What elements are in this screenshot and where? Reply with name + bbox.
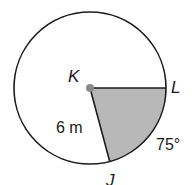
radius-label: 6 m	[56, 119, 83, 136]
label-l: L	[171, 78, 180, 97]
label-j: J	[105, 171, 115, 185]
circle-diagram: K L J 6 m 75°	[0, 0, 196, 185]
center-point	[86, 84, 94, 92]
shaded-sector	[90, 88, 166, 161]
arc-label: 75°	[156, 136, 180, 153]
label-k: K	[68, 67, 80, 86]
